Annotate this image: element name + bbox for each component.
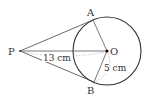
label-distance-PO: 13 cm [43, 53, 71, 63]
center-point-O [105, 49, 108, 52]
radius-OA [93, 20, 107, 51]
label-B: B [87, 85, 94, 96]
tangent-diagram: A B P O 13 cm 5 cm [0, 0, 155, 101]
label-O: O [110, 46, 118, 57]
tangent-PA [20, 20, 93, 51]
label-P: P [8, 46, 15, 57]
label-A: A [86, 7, 95, 18]
point-P [19, 50, 21, 52]
label-radius: 5 cm [104, 63, 127, 73]
